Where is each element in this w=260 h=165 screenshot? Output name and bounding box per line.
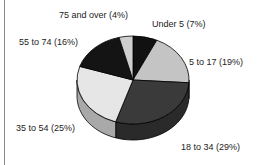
pie-chart	[0, 0, 260, 165]
label-75-and-over: 75 and over (4%)	[59, 11, 128, 20]
label-18-to-34: 18 to 34 (29%)	[181, 143, 240, 152]
label-55-to-74: 55 to 74 (16%)	[19, 38, 78, 47]
label-5-to-17: 5 to 17 (19%)	[189, 58, 243, 67]
label-35-to-54: 35 to 54 (25%)	[16, 124, 75, 133]
label-under-5: Under 5 (7%)	[152, 20, 206, 29]
